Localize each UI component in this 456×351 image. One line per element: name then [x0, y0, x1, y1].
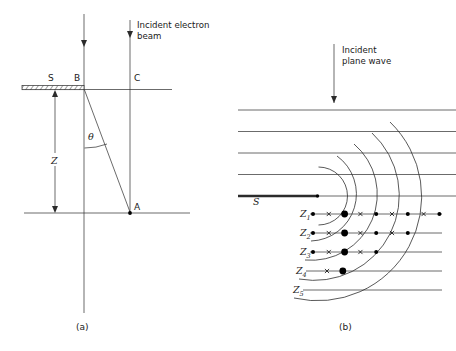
marker-dot: [311, 212, 315, 216]
marker-dot: [311, 250, 315, 254]
panel-b: Incident plane wave S: [238, 44, 456, 332]
wavefront-arc-2: [311, 156, 356, 241]
marker-dot: [437, 212, 441, 216]
marker-dot: [406, 212, 410, 216]
marker-dot: [374, 212, 378, 216]
caption-panel-b: (b): [339, 322, 352, 332]
marker-large-dot: [341, 230, 348, 237]
marker-large-dot: [341, 249, 348, 256]
z-arrow-top: [52, 90, 58, 97]
marker-dot: [374, 231, 378, 235]
plane-wave-arrowhead: [331, 96, 337, 103]
slit-edge-point: [316, 194, 319, 197]
wavefront-arcs: [294, 122, 422, 301]
zone-label-5-sub: 5: [300, 290, 304, 298]
annotation-incident-electron-line1: Incident electron: [137, 20, 210, 30]
label-s-b: S: [253, 196, 260, 207]
zone-label-5: Z 5: [292, 284, 304, 298]
zone-labels: Z 1 Z 2 Z 3 Z 4 Z 5: [292, 208, 311, 298]
zone-label-3-sub: 3: [307, 252, 311, 260]
c-line-arrowhead: [127, 31, 133, 38]
zone-label-4-sub: 4: [302, 271, 307, 279]
zone-label-1-sub: 1: [307, 214, 311, 222]
diffracted-ray-ba: [85, 90, 131, 212]
label-b: B: [74, 73, 80, 83]
theta-arc: [85, 144, 108, 148]
point-a-marker: [128, 211, 132, 215]
panel-a: S B C A Z θ Incident electron beam (a): [22, 14, 210, 332]
zone-label-1: Z 1: [299, 208, 311, 222]
plane-wave-lines: [238, 110, 456, 196]
label-c: C: [134, 73, 140, 83]
marker-large-dot: [341, 211, 348, 218]
label-a: A: [134, 202, 141, 212]
zone-label-2-sub: 2: [306, 233, 311, 241]
wavefront-arc-5: [294, 122, 422, 301]
wavefront-arc-3: [305, 144, 377, 260]
caption-panel-a: (a): [76, 322, 89, 332]
figure-canvas: S B C A Z θ Incident electron beam (a) I…: [0, 0, 456, 351]
zone-markers: [311, 211, 441, 275]
zone-lines: [303, 214, 442, 290]
marker-dot: [406, 231, 410, 235]
diagram-svg: S B C A Z θ Incident electron beam (a) I…: [0, 0, 456, 351]
beam-arrowhead: [81, 40, 87, 47]
zone-label-2: Z 2: [299, 227, 311, 241]
label-z-distance: Z: [50, 155, 58, 166]
marker-large-dot: [339, 268, 346, 275]
label-theta: θ: [88, 131, 94, 142]
marker-dot: [311, 231, 315, 235]
z-arrow-bottom: [52, 206, 58, 213]
annotation-incident-electron-line2: beam: [137, 31, 161, 41]
label-s-a: S: [48, 73, 54, 83]
zone-label-3: Z 3: [299, 246, 311, 260]
hatched-screen: [22, 86, 84, 90]
zone-label-4: Z 4: [295, 265, 307, 279]
annotation-incident-plane-line2: plane wave: [342, 56, 391, 66]
wavefront-arc-4: [299, 133, 399, 280]
annotation-incident-plane-line1: Incident: [342, 45, 377, 55]
marker-dot: [374, 250, 378, 254]
